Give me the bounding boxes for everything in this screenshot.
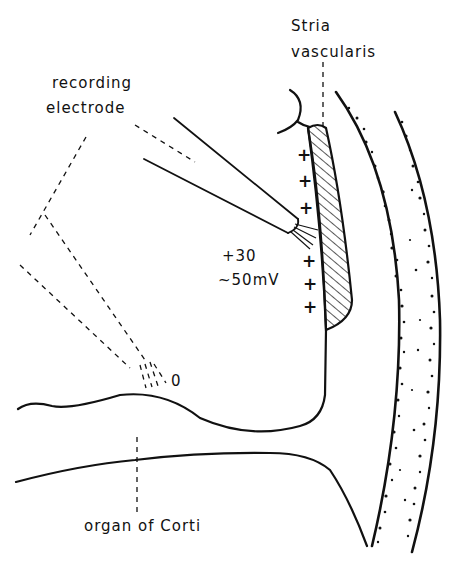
stipple-dots <box>348 107 436 543</box>
label-potential-line1: +30 <box>222 247 257 265</box>
label-zero-potential: 0 <box>171 372 182 390</box>
label-stria-line1: Stria <box>291 17 331 35</box>
plus-sign: + <box>303 297 317 317</box>
label-stria-line2: vascularis <box>291 43 376 61</box>
label-electrode-line2: electrode <box>46 99 126 117</box>
cochlear-duct-diagram: Stria vascularis recording electrode 0 +… <box>0 0 462 564</box>
plus-sign: + <box>298 171 312 191</box>
electrode-tip-fibers <box>291 224 318 249</box>
electrode-ghost-leader <box>30 137 86 235</box>
plus-sign: + <box>303 274 317 294</box>
electrode-dashed-position <box>20 215 166 388</box>
recording-electrode <box>144 118 318 249</box>
plus-sign: + <box>299 198 313 218</box>
plus-sign: + <box>297 145 311 165</box>
bony-cochlear-wall <box>336 92 440 552</box>
plus-sign: + <box>302 251 316 271</box>
label-potential-line2: ~50mV <box>218 271 280 289</box>
reissner-membrane-hook <box>278 90 310 133</box>
label-electrode-line1: recording <box>52 74 132 92</box>
label-organ-of-corti: organ of Corti <box>84 517 201 535</box>
electrode-leader-line <box>135 125 195 162</box>
